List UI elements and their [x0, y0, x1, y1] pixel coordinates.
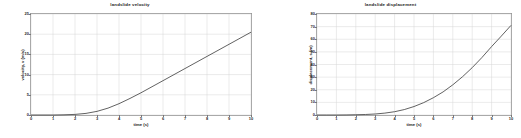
x-tick-label: 7: [184, 117, 186, 121]
x-tick-mark: [97, 115, 98, 117]
chart-landslide-velocity: landslide velocity 051015202501234567891…: [0, 0, 260, 138]
y-tick-mark: [29, 14, 31, 15]
velocity-curve: [31, 14, 251, 115]
x-tick-label: 8: [206, 117, 208, 121]
x-tick-mark: [207, 115, 208, 117]
x-tick-mark: [414, 115, 415, 117]
x-tick-label: 4: [393, 117, 395, 121]
chart-landslide-displacement: landslide displacement 01020304050607080…: [260, 0, 521, 138]
plot-area: 01020304050607080012345678910 time (s) d…: [316, 13, 512, 116]
x-tick-mark: [31, 115, 32, 117]
y-tick-mark: [315, 77, 317, 78]
x-tick-mark: [229, 115, 230, 117]
y-tick-mark: [315, 14, 317, 15]
x-tick-label: 3: [96, 117, 98, 121]
x-tick-label: 0: [316, 117, 318, 121]
x-tick-label: 6: [162, 117, 164, 121]
x-tick-mark: [375, 115, 376, 117]
y-tick-mark: [29, 95, 31, 96]
x-tick-label: 4: [118, 117, 120, 121]
x-tick-label: 7: [452, 117, 454, 121]
x-tick-label: 5: [413, 117, 415, 121]
x-axis-label: time (s): [407, 122, 422, 127]
figure-row: landslide velocity 051015202501234567891…: [0, 0, 521, 138]
x-tick-mark: [185, 115, 186, 117]
x-tick-label: 8: [471, 117, 473, 121]
y-axis-label: displacement, s (m): [308, 45, 313, 84]
x-tick-mark: [75, 115, 76, 117]
y-tick-mark: [315, 52, 317, 53]
x-tick-mark: [395, 115, 396, 117]
y-tick-mark: [29, 54, 31, 55]
y-tick-mark: [315, 102, 317, 103]
x-axis-label: time (s): [134, 122, 149, 127]
plot-area: 0510152025012345678910 time (s) velocity…: [30, 13, 252, 116]
x-tick-label: 0: [30, 117, 32, 121]
x-tick-mark: [53, 115, 54, 117]
y-tick-mark: [29, 34, 31, 35]
x-tick-mark: [317, 115, 318, 117]
x-tick-label: 1: [52, 117, 54, 121]
x-tick-mark: [453, 115, 454, 117]
y-tick-mark: [315, 90, 317, 91]
y-tick-mark: [315, 65, 317, 66]
x-tick-label: 10: [249, 117, 253, 121]
x-tick-mark: [141, 115, 142, 117]
chart-title: landslide velocity: [0, 2, 260, 8]
y-axis-label: velocity, v (m/s): [20, 49, 25, 80]
curve-path: [317, 25, 511, 115]
curve-path: [31, 32, 251, 115]
x-tick-mark: [163, 115, 164, 117]
x-tick-mark: [356, 115, 357, 117]
x-tick-label: 2: [74, 117, 76, 121]
chart-title: landslide displacement: [260, 2, 521, 8]
x-tick-mark: [433, 115, 434, 117]
x-tick-label: 9: [490, 117, 492, 121]
displacement-curve: [317, 14, 511, 115]
x-tick-label: 6: [432, 117, 434, 121]
y-tick-mark: [315, 27, 317, 28]
x-tick-mark: [492, 115, 493, 117]
x-tick-label: 9: [228, 117, 230, 121]
x-tick-label: 3: [374, 117, 376, 121]
x-tick-label: 5: [140, 117, 142, 121]
x-tick-mark: [119, 115, 120, 117]
x-tick-label: 1: [335, 117, 337, 121]
x-tick-mark: [336, 115, 337, 117]
x-tick-mark: [251, 115, 252, 117]
x-tick-label: 10: [509, 117, 513, 121]
x-tick-mark: [511, 115, 512, 117]
y-tick-mark: [315, 39, 317, 40]
x-tick-label: 2: [355, 117, 357, 121]
x-tick-mark: [472, 115, 473, 117]
y-tick-mark: [29, 75, 31, 76]
